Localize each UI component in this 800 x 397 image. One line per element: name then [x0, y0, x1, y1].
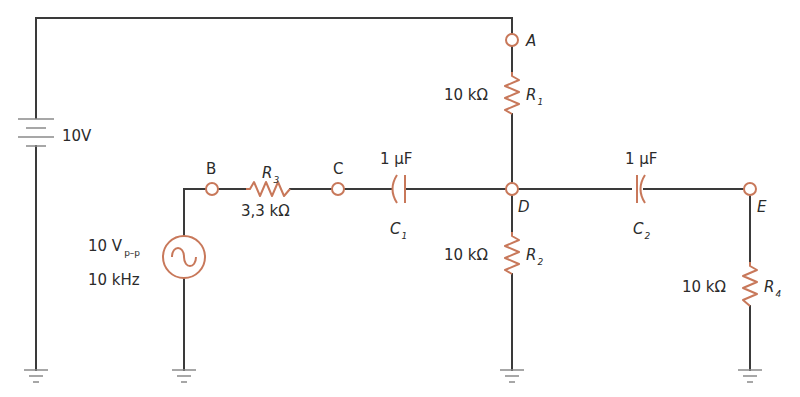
resistor-r4-label: R4 — [764, 278, 781, 299]
battery-10v: 10V — [18, 119, 92, 146]
resistor-r2: 10 kΩ R2 — [444, 232, 543, 274]
node-a: A — [506, 32, 536, 50]
resistor-r3-icon — [246, 182, 290, 196]
node-b-terminal-icon — [206, 183, 218, 195]
node-d-terminal-icon — [506, 183, 518, 195]
capacitor-c1: 1 μF C1 — [380, 150, 412, 241]
node-e-terminal-icon — [744, 183, 756, 195]
resistor-r3: R3 3,3 kΩ — [241, 164, 290, 220]
ground-r4 — [738, 370, 762, 382]
node-b-label: B — [206, 160, 216, 178]
ground-ac-source — [172, 370, 196, 382]
resistor-r2-label: R2 — [526, 246, 543, 267]
ground-r2 — [500, 370, 524, 382]
node-a-terminal-icon — [506, 34, 518, 46]
capacitor-c2-value: 1 μF — [625, 150, 657, 168]
ground-battery — [24, 370, 48, 382]
resistor-r1-label: R1 — [526, 86, 543, 107]
capacitor-c2: 1 μF C2 — [625, 150, 657, 241]
resistor-r1: 10 kΩ R1 — [444, 72, 543, 114]
resistor-r4: 10 kΩ R4 — [682, 262, 781, 306]
capacitor-c1-curved-plate-icon — [393, 175, 398, 203]
node-e: E — [744, 183, 767, 216]
capacitor-c1-label: C1 — [390, 220, 407, 241]
capacitor-c1-value: 1 μF — [380, 150, 412, 168]
resistor-r1-value: 10 kΩ — [444, 86, 488, 104]
resistor-r4-icon — [743, 262, 757, 306]
node-c-terminal-icon — [332, 183, 344, 195]
resistor-r2-icon — [505, 232, 519, 274]
wire-source-b — [184, 189, 205, 236]
sine-wave-icon — [172, 248, 196, 266]
node-c-label: C — [333, 160, 343, 178]
ac-voltage-source: 10 Vp–p 10 kHz — [88, 236, 205, 289]
circuit-schematic: 10V 10 Vp–p 10 kHz 10 kΩ R1 10 kΩ R2 R3 … — [0, 0, 800, 397]
resistor-r4-value: 10 kΩ — [682, 278, 726, 296]
node-d: D — [506, 183, 530, 216]
wire-top-rail — [36, 18, 512, 118]
resistor-r3-value: 3,3 kΩ — [241, 202, 290, 220]
resistor-r2-value: 10 kΩ — [444, 246, 488, 264]
resistor-r3-label: R3 — [262, 164, 279, 185]
battery-label: 10V — [62, 127, 92, 145]
node-d-label: D — [518, 198, 530, 216]
node-c: C — [332, 160, 344, 195]
resistor-r1-icon — [505, 72, 519, 114]
ac-source-amplitude: 10 Vp–p — [88, 237, 140, 258]
node-b: B — [206, 160, 218, 195]
ac-source-frequency: 10 kHz — [88, 271, 140, 289]
capacitor-c2-label: C2 — [633, 220, 650, 241]
node-a-label: A — [525, 32, 536, 50]
node-e-label: E — [757, 198, 767, 216]
